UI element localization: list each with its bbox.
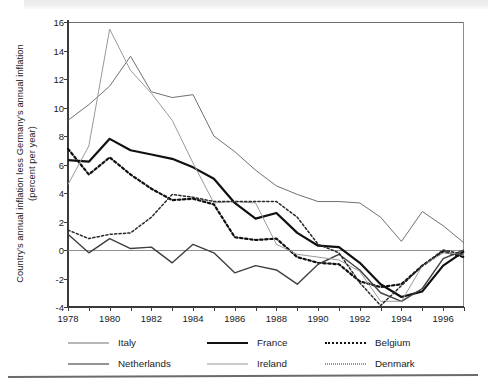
series-line-france — [68, 139, 464, 297]
x-tick-label: 1986 — [224, 313, 245, 324]
x-tick-mark — [381, 307, 382, 311]
legend-label: France — [257, 337, 288, 348]
x-tick-label: 1992 — [349, 313, 370, 324]
x-tick-mark — [401, 307, 402, 311]
series-line-denmark — [68, 194, 464, 305]
legend-swatch-belgium-icon — [325, 338, 366, 348]
y-tick-label: -2 — [56, 273, 64, 284]
x-tick-label: 1994 — [391, 313, 412, 324]
x-tick-mark — [464, 307, 465, 311]
legend-swatch-denmark-icon — [325, 359, 366, 369]
x-tick-mark — [256, 307, 257, 311]
y-tick-label: 10 — [53, 102, 64, 113]
legend-item-ireland[interactable]: Ireland — [207, 358, 325, 369]
y-tick-label: 12 — [53, 74, 64, 85]
legend-row: ItalyFranceBelgium — [68, 332, 468, 353]
legend-item-denmark[interactable]: Denmark — [325, 358, 445, 369]
legend-swatch-france-icon — [207, 338, 248, 348]
page-rule-bottom — [8, 374, 478, 378]
x-tick-mark — [131, 307, 132, 311]
legend-item-france[interactable]: France — [207, 337, 325, 348]
x-tick-mark — [443, 307, 444, 311]
x-tick-label: 1980 — [99, 313, 120, 324]
x-tick-label: 1982 — [141, 313, 162, 324]
series-lines — [68, 22, 464, 307]
chart-page: Country's annual inflation less Germany'… — [0, 0, 488, 389]
series-line-belgium — [68, 149, 464, 287]
chart-legend: ItalyFranceBelgiumNetherlandsIrelandDenm… — [68, 332, 468, 374]
legend-swatch-netherlands-icon — [68, 359, 109, 369]
y-tick-label: 14 — [53, 45, 64, 56]
legend-item-belgium[interactable]: Belgium — [325, 337, 445, 348]
legend-label: Italy — [118, 337, 136, 348]
x-tick-mark — [235, 307, 236, 311]
legend-item-italy[interactable]: Italy — [68, 337, 207, 348]
x-tick-mark — [68, 307, 69, 311]
x-tick-label: 1978 — [57, 313, 78, 324]
y-tick-label: -4 — [56, 302, 64, 313]
series-line-netherlands — [68, 234, 464, 301]
page-scan-edge-top — [24, 0, 488, 9]
x-tick-mark — [110, 307, 111, 311]
legend-label: Netherlands — [118, 358, 171, 369]
x-tick-mark — [193, 307, 194, 311]
x-tick-mark — [151, 307, 152, 311]
x-tick-label: 1996 — [433, 313, 454, 324]
x-tick-mark — [318, 307, 319, 311]
legend-swatch-ireland-icon — [207, 359, 248, 369]
legend-swatch-italy-icon — [68, 338, 109, 348]
y-tick-label: 16 — [53, 17, 64, 28]
x-tick-label: 1984 — [182, 313, 203, 324]
plot-area: 1614121086420-2-4 1978198019821984198619… — [68, 22, 464, 307]
x-tick-mark — [89, 307, 90, 311]
x-tick-mark — [297, 307, 298, 311]
legend-row: NetherlandsIrelandDenmark — [68, 353, 468, 374]
legend-label: Denmark — [375, 358, 415, 369]
x-tick-mark — [360, 307, 361, 311]
x-tick-label: 1990 — [308, 313, 329, 324]
x-tick-mark — [214, 307, 215, 311]
x-tick-mark — [422, 307, 423, 311]
legend-label: Belgium — [375, 337, 410, 348]
y-axis-title: Country's annual inflation less Germany'… — [15, 14, 38, 314]
legend-label: Ireland — [257, 358, 287, 369]
legend-item-netherlands[interactable]: Netherlands — [68, 358, 207, 369]
x-tick-label: 1988 — [266, 313, 287, 324]
series-line-ireland — [68, 29, 464, 301]
x-tick-mark — [339, 307, 340, 311]
x-tick-mark — [276, 307, 277, 311]
x-tick-mark — [172, 307, 173, 311]
